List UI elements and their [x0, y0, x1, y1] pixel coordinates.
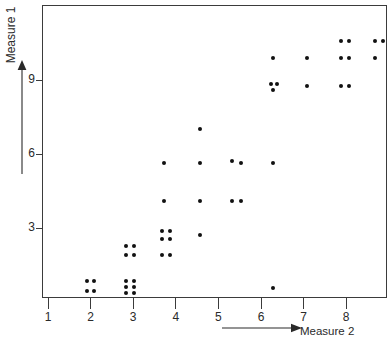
- data-point: [339, 56, 343, 60]
- x-axis-tick-label: 4: [166, 311, 186, 323]
- y-axis-tick-label: 6: [17, 147, 35, 159]
- data-point: [92, 289, 96, 293]
- x-axis-tick-label: 1: [38, 311, 58, 323]
- data-point: [85, 279, 89, 283]
- data-point: [230, 199, 234, 203]
- data-point: [124, 291, 128, 295]
- data-point: [92, 279, 96, 283]
- data-point: [132, 244, 136, 248]
- data-point: [198, 161, 202, 165]
- data-point: [124, 253, 128, 257]
- data-point: [271, 161, 275, 165]
- data-point: [132, 253, 136, 257]
- data-point: [271, 88, 275, 92]
- data-point: [124, 279, 128, 283]
- y-axis-tick-label: 3: [17, 221, 35, 233]
- x-axis-tick-label: 8: [336, 311, 356, 323]
- scatter-plot-figure: Measure 1 Measure 2 963 12345678: [0, 0, 391, 341]
- data-point: [162, 161, 166, 165]
- data-point: [85, 289, 89, 293]
- x-axis-tick-label: 6: [251, 311, 271, 323]
- data-point: [305, 84, 309, 88]
- data-point: [124, 244, 128, 248]
- data-point: [347, 84, 351, 88]
- data-point: [269, 82, 273, 86]
- data-point: [381, 39, 385, 43]
- x-axis-tick-label: 3: [123, 311, 143, 323]
- data-point: [168, 229, 172, 233]
- x-axis-tick: [303, 298, 304, 309]
- data-point: [275, 82, 279, 86]
- data-point: [373, 39, 377, 43]
- data-points-layer: [43, 6, 386, 297]
- x-axis-title: Measure 2: [300, 325, 354, 337]
- x-axis-tick-label: 5: [208, 311, 228, 323]
- data-point: [198, 127, 202, 131]
- data-point: [339, 39, 343, 43]
- x-axis-tick: [261, 298, 262, 309]
- x-axis-tick: [175, 298, 176, 309]
- data-point: [160, 253, 164, 257]
- x-axis-tick-label: 2: [81, 311, 101, 323]
- data-point: [124, 285, 128, 289]
- data-point: [230, 159, 234, 163]
- data-point: [168, 253, 172, 257]
- data-point: [339, 84, 343, 88]
- data-point: [347, 56, 351, 60]
- data-point: [347, 39, 351, 43]
- y-axis-tick-label: 9: [17, 73, 35, 85]
- data-point: [373, 56, 377, 60]
- data-point: [162, 199, 166, 203]
- data-point: [132, 285, 136, 289]
- data-point: [132, 291, 136, 295]
- data-point: [305, 56, 309, 60]
- data-point: [239, 161, 243, 165]
- data-point: [271, 56, 275, 60]
- data-point: [239, 199, 243, 203]
- data-point: [271, 286, 275, 290]
- data-point: [160, 237, 164, 241]
- x-axis-tick: [48, 298, 49, 309]
- data-point: [132, 279, 136, 283]
- data-point: [198, 199, 202, 203]
- x-axis-tick: [346, 298, 347, 309]
- x-axis-tick-label: 7: [294, 311, 314, 323]
- plot-area: [42, 5, 387, 298]
- x-axis-tick: [218, 298, 219, 309]
- data-point: [198, 233, 202, 237]
- x-axis-tick: [90, 298, 91, 309]
- x-axis-tick: [133, 298, 134, 309]
- data-point: [168, 237, 172, 241]
- data-point: [160, 229, 164, 233]
